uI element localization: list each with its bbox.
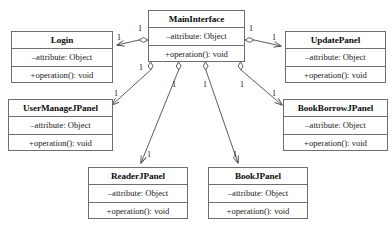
class-box-maininterface[interactable]: MainInterface –attribute: Object +operat… [148, 10, 245, 62]
class-name: ReaderJPanel [89, 168, 187, 185]
class-attribute: –attribute: Object [209, 185, 307, 203]
class-name: MainInterface [149, 11, 244, 28]
class-box-usermanagejpanel[interactable]: UserManageJPanel –attribute: Object +ope… [8, 99, 113, 151]
class-attribute: –attribute: Object [9, 117, 112, 135]
class-attribute: –attribute: Object [284, 117, 387, 135]
class-box-readerjpanel[interactable]: ReaderJPanel –attribute: Object +operati… [88, 167, 188, 219]
multiplicity-label-main-readerjpanel-whole: 1 [172, 80, 176, 89]
multiplicity-label-main-bookjpanel-whole: 1 [203, 80, 207, 89]
class-operation: +operation(): void [149, 46, 244, 63]
association-main-bookjpanel [203, 62, 238, 163]
class-operation: +operation(): void [209, 203, 307, 220]
association-main-login [117, 38, 148, 45]
association-line [254, 40, 281, 46]
class-attribute: –attribute: Object [89, 185, 187, 203]
class-name: UpdatePanel [286, 32, 385, 49]
class-operation: +operation(): void [89, 203, 187, 220]
class-name: BookBorrowJPanel [284, 100, 387, 117]
class-name: Login [12, 32, 112, 49]
multiplicity-label-main-readerjpanel-part: 1 [147, 150, 151, 159]
class-box-login[interactable]: Login –attribute: Object +operation(): v… [11, 31, 113, 83]
class-operation: +operation(): void [12, 67, 112, 84]
aggregation-diamond-icon [176, 62, 181, 70]
class-box-bookborrowjpanel[interactable]: BookBorrowJPanel –attribute: Object +ope… [283, 99, 388, 151]
aggregation-diamond-icon [139, 38, 148, 43]
multiplicity-label-main-bookjpanel-part: 1 [233, 150, 237, 159]
multiplicity-label-main-bookborrowjpanel-whole: 1 [240, 80, 244, 89]
class-attribute: –attribute: Object [286, 49, 385, 67]
aggregation-diamond-icon [238, 62, 243, 70]
association-main-usermanagejpanel [112, 62, 153, 105]
class-box-updatepanel[interactable]: UpdatePanel –attribute: Object +operatio… [285, 31, 386, 83]
aggregation-diamond-icon [245, 38, 254, 43]
aggregation-diamond-icon [148, 62, 153, 70]
uml-class-diagram-canvas: MainInterface –attribute: Object +operat… [0, 0, 392, 234]
aggregation-diamond-icon [203, 62, 208, 70]
multiplicity-label-main-usermanagejpanel-whole: 1 [139, 63, 143, 72]
association-line [112, 70, 151, 105]
class-attribute: –attribute: Object [12, 49, 112, 67]
class-name: BookJPanel [209, 168, 307, 185]
association-main-bookborrowjpanel [238, 62, 282, 105]
class-operation: +operation(): void [9, 135, 112, 152]
class-name: UserManageJPanel [9, 100, 112, 117]
multiplicity-label-main-updatepanel-part: 1 [272, 33, 276, 42]
class-operation: +operation(): void [284, 135, 387, 152]
multiplicity-label-main-login-whole: 1 [138, 24, 142, 33]
association-main-readerjpanel [141, 62, 181, 163]
class-operation: +operation(): void [286, 67, 385, 84]
multiplicity-label-main-updatepanel-whole: 1 [249, 24, 253, 33]
multiplicity-label-main-login-part: 1 [117, 33, 121, 42]
class-box-bookjpanel[interactable]: BookJPanel –attribute: Object +operation… [208, 167, 308, 219]
multiplicity-label-main-usermanagejpanel-part: 1 [114, 89, 118, 98]
multiplicity-label-main-bookborrowjpanel-part: 1 [272, 89, 276, 98]
class-attribute: –attribute: Object [149, 28, 244, 46]
association-line [241, 70, 282, 105]
